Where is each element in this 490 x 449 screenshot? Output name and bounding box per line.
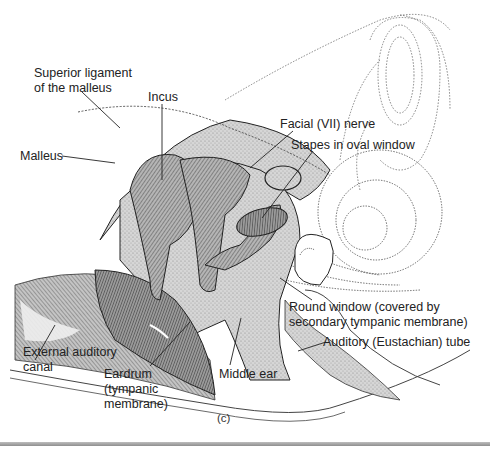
label-eardrum: Eardrum (tympanic membrane) <box>104 367 168 412</box>
label-stapes: Stapes in oval window <box>291 138 415 153</box>
bottom-divider <box>0 442 490 446</box>
label-line: Round window (covered by <box>289 300 468 315</box>
label-line: Stapes in oval window <box>291 138 415 153</box>
label-line: secondary tympanic membrane) <box>289 315 468 330</box>
label-middle-ear: Middle ear <box>219 367 277 382</box>
label-line: Incus <box>148 90 178 105</box>
label-round-window: Round window (covered by secondary tympa… <box>289 300 468 330</box>
label-facial-nerve: Facial (VII) nerve <box>280 117 375 132</box>
facial-nerve-section <box>265 166 301 190</box>
label-line: Middle ear <box>219 367 277 382</box>
figure-caption: (c) <box>217 412 230 424</box>
label-line: Superior ligament <box>34 66 132 81</box>
label-line: membrane) <box>104 397 168 412</box>
label-incus: Incus <box>148 90 178 105</box>
label-line: Malleus <box>20 149 63 164</box>
label-line: (tympanic <box>104 382 168 397</box>
label-line: canal <box>23 360 117 375</box>
label-line: Eardrum <box>104 367 168 382</box>
label-eustachian-tube: Auditory (Eustachian) tube <box>323 335 470 350</box>
label-superior-ligament: Superior ligament of the malleus <box>34 66 132 96</box>
label-malleus: Malleus <box>20 149 63 164</box>
label-line: Auditory (Eustachian) tube <box>323 335 470 350</box>
label-external-canal: External auditory canal <box>23 345 117 375</box>
round-window-shape <box>295 234 333 285</box>
label-line: Facial (VII) nerve <box>280 117 375 132</box>
label-line: External auditory <box>23 345 117 360</box>
label-line: of the malleus <box>34 81 132 96</box>
